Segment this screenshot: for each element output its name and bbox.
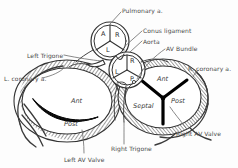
label-aorta: Aorta — [143, 39, 160, 45]
left-av-leaflet-posterior: Post — [64, 121, 78, 128]
pulmonary-root-wall — [76, 50, 93, 62]
label-pulmonary-artery: Pulmonary a. — [122, 8, 163, 14]
label-left-av-valve: Left AV Valve — [64, 157, 104, 163]
right-av-leaflet-posterior: Post — [171, 98, 185, 105]
aortic-cusp-posterior: P — [130, 76, 134, 83]
label-av-bundle: AV Bundle — [166, 46, 198, 52]
pulmonary-cusp-anterior: A — [101, 31, 105, 38]
label-right-trigone: Right Trigone — [111, 146, 152, 152]
label-right-av-valve: Right AV Valve — [176, 131, 221, 137]
label-left-trigone: Left Trigone — [27, 53, 63, 59]
left-av-leaflet-anterior: Ant — [71, 98, 82, 105]
pulmonary-cusp-right: R — [115, 32, 120, 39]
left-av-valve-annulus — [14, 60, 120, 142]
label-left-coronary-artery: L. coronary a. — [4, 76, 47, 82]
heart-valve-plane-figure — [0, 0, 238, 168]
label-right-coronary-artery: R. coronary a. — [188, 66, 231, 72]
right-av-leaflet-anterior: Ant — [157, 76, 168, 83]
right-av-leaflet-septal: Septal — [133, 103, 154, 110]
label-conus-ligament: Conus ligament — [143, 28, 191, 34]
aortic-cusp-left: L — [115, 69, 119, 76]
aortic-cusp-right: R — [130, 58, 135, 65]
pulmonary-cusp-left: L — [106, 47, 110, 54]
anatomical-diagram-page: Pulmonary a. Conus ligament Aorta AV Bun… — [0, 0, 238, 168]
